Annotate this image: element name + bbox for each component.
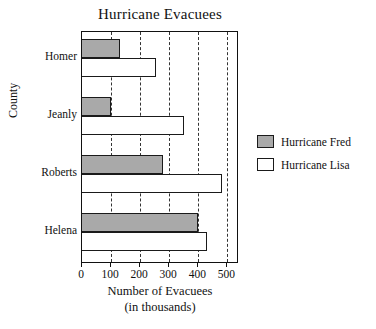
bar-jeanly-hurricane-lisa	[81, 116, 184, 135]
x-axis-subtitle: (in thousands)	[59, 300, 261, 315]
y-axis-label-jeanly: Jeanly	[7, 108, 77, 120]
legend-swatch-lisa	[257, 158, 274, 171]
chart-title: Hurricane Evacuees	[60, 6, 260, 23]
x-tick-500	[226, 263, 227, 267]
gridline-400	[198, 32, 199, 262]
legend-label: Hurricane Lisa	[281, 159, 350, 171]
bar-jeanly-hurricane-fred	[81, 97, 111, 116]
x-tick-label-500: 500	[206, 268, 246, 280]
legend-item-hurricane-lisa: Hurricane Lisa	[257, 154, 369, 175]
x-tick-300	[168, 263, 169, 267]
bar-roberts-hurricane-lisa	[81, 174, 222, 193]
bar-homer-hurricane-lisa	[81, 58, 156, 77]
x-tick-400	[197, 263, 198, 267]
hurricane-evacuees-bar-chart: Hurricane Evacuees County HomerJeanlyRob…	[0, 0, 376, 329]
bar-roberts-hurricane-fred	[81, 155, 163, 174]
bar-helena-hurricane-lisa	[81, 232, 207, 251]
y-axis-label-roberts: Roberts	[7, 166, 77, 178]
plot-area	[81, 31, 238, 263]
legend-label: Hurricane Fred	[281, 136, 351, 148]
chart-legend: Hurricane FredHurricane Lisa	[257, 131, 369, 177]
x-tick-200	[139, 263, 140, 267]
x-axis-title: Number of Evacuees	[59, 284, 261, 299]
bar-helena-hurricane-fred	[81, 213, 198, 232]
legend-item-hurricane-fred: Hurricane Fred	[257, 131, 369, 152]
x-tick-100	[110, 263, 111, 267]
gridline-500	[227, 32, 228, 262]
bar-homer-hurricane-fred	[81, 39, 120, 58]
x-tick-0	[81, 263, 82, 267]
legend-swatch-fred	[257, 135, 274, 148]
y-axis-label-helena: Helena	[7, 224, 77, 236]
y-axis-label-homer: Homer	[7, 50, 77, 62]
